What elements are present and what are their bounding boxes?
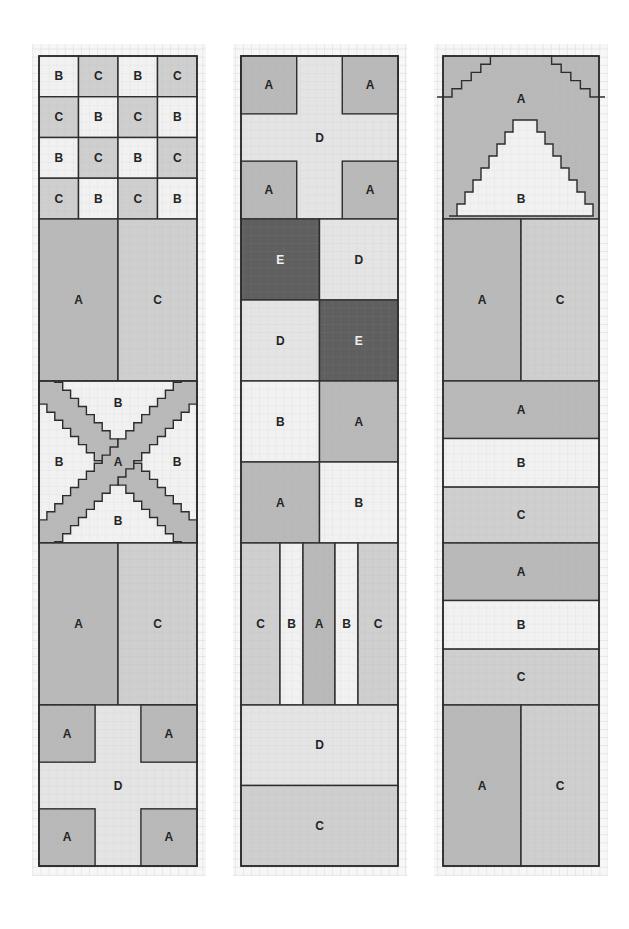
quilt-strip-1: BCBCCBCBBCBCCBCBACBBABBACAADAA [32, 44, 206, 876]
fabric-label: D [354, 253, 363, 267]
block-x-cross: BBABB [39, 381, 197, 543]
fabric-label: A [265, 183, 274, 197]
block-stepped-triangle: AB [437, 56, 605, 219]
block-vertical-stripes: CBABC [241, 543, 398, 705]
fabric-label: B [133, 151, 142, 165]
quilt-diagram: BCBCCBCBBCBCCBCBACBBABBACAADAAAADAAEDDEB… [0, 0, 629, 929]
fabric-label: B [54, 151, 63, 165]
fabric-label: A [366, 78, 375, 92]
fabric-label: A [517, 565, 526, 579]
fabric-label: D [276, 334, 285, 348]
block-halves-vertical: AC [39, 219, 197, 381]
block-horizontal-bars: DC [241, 705, 398, 866]
fabric-label: C [374, 617, 383, 631]
fabric-label: C [153, 293, 162, 307]
fabric-label: A [63, 830, 72, 844]
fabric-label: B [287, 617, 296, 631]
fabric-label: A [114, 455, 123, 469]
block-four-patch: EDDE [241, 219, 398, 381]
fabric-label: C [94, 151, 103, 165]
fabric-label: C [556, 779, 565, 793]
strip-blocks: BCBCCBCBBCBCCBCBACBBABBACAADAA [39, 56, 197, 866]
block-four-patch: BAAB [241, 381, 398, 543]
fabric-label: B [342, 617, 351, 631]
fabric-label: A [517, 403, 526, 417]
fabric-label: B [173, 455, 182, 469]
fabric-label: A [276, 496, 285, 510]
fabric-label: B [133, 69, 142, 83]
block-corner-squares: AADAA [39, 705, 197, 866]
block-horizontal-bars: ABC [443, 381, 599, 543]
fabric-label: B [114, 396, 123, 410]
strips-layer: BCBCCBCBBCBCCBCBACBBABBACAADAAAADAAEDDEB… [32, 44, 608, 876]
fabric-label: A [165, 727, 174, 741]
fabric-label: C [133, 192, 142, 206]
fabric-label: A [315, 617, 324, 631]
fabric-label: A [74, 617, 83, 631]
fabric-label: B [114, 514, 123, 528]
fabric-label: C [54, 110, 63, 124]
fabric-label: B [55, 455, 64, 469]
block-halves-vertical: AC [443, 705, 599, 866]
fabric-label: C [54, 192, 63, 206]
fabric-label: B [173, 192, 182, 206]
fabric-label: C [517, 508, 526, 522]
fabric-label: C [173, 69, 182, 83]
fabric-label: C [315, 819, 324, 833]
fabric-label: D [315, 738, 324, 752]
quilt-strip-2: AADAAEDDEBAABCBABCDC [233, 44, 407, 876]
fabric-label: C [153, 617, 162, 631]
fabric-label: B [94, 110, 103, 124]
block-halves-vertical: AC [443, 219, 599, 381]
fabric-label: C [517, 670, 526, 684]
fabric-label: A [265, 78, 274, 92]
fabric-label: C [133, 110, 142, 124]
fabric-label: D [114, 779, 123, 793]
fabric-label: A [517, 92, 526, 106]
block-checkerboard: BCBCCBCBBCBCCBCB [39, 56, 197, 219]
fabric-label: A [478, 779, 487, 793]
strip-blocks: ABACABCABCAC [437, 56, 605, 866]
fabric-label: B [276, 415, 285, 429]
fabric-label: C [94, 69, 103, 83]
fabric-label: B [517, 192, 526, 206]
fabric-label: A [74, 293, 83, 307]
fabric-label: B [54, 69, 63, 83]
fabric-label: E [276, 253, 284, 267]
fabric-label: E [355, 334, 363, 348]
fabric-label: A [478, 293, 487, 307]
fabric-label: B [173, 110, 182, 124]
fabric-label: B [517, 456, 526, 470]
fabric-label: C [556, 293, 565, 307]
block-corner-squares: AADAA [241, 56, 398, 219]
fabric-label: A [63, 727, 72, 741]
fabric-label: A [354, 415, 363, 429]
block-halves-vertical: AC [39, 543, 197, 705]
fabric-label: C [256, 617, 265, 631]
fabric-label: A [366, 183, 375, 197]
fabric-label: D [315, 131, 324, 145]
block-horizontal-bars: ABC [443, 543, 599, 705]
fabric-label: A [165, 830, 174, 844]
strip-blocks: AADAAEDDEBAABCBABCDC [241, 56, 398, 866]
fabric-label: B [94, 192, 103, 206]
fabric-label: B [517, 618, 526, 632]
fabric-label: C [173, 151, 182, 165]
fabric-label: B [354, 496, 363, 510]
quilt-strip-3: ABACABCABCAC [434, 44, 608, 876]
